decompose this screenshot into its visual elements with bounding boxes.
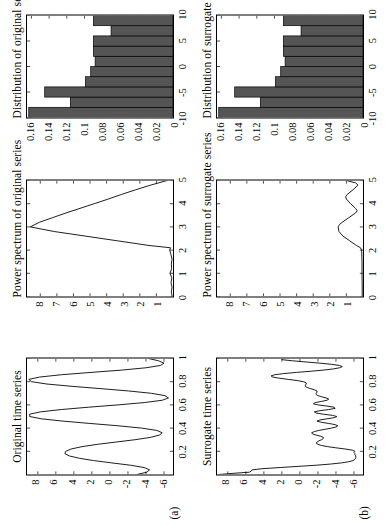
ytick: 0.12	[251, 122, 262, 140]
ytick: -6	[158, 479, 169, 488]
plot-original-time-series	[26, 357, 174, 475]
xtick: 5	[367, 37, 378, 42]
ytick: 2	[274, 479, 285, 484]
original-power-spectrum-svg	[27, 180, 173, 296]
ytick: 0.1	[79, 122, 90, 135]
ytick: 2	[84, 479, 95, 484]
ytick: 0.08	[287, 122, 298, 140]
xtick: -5	[177, 88, 188, 97]
ytick: 4	[256, 479, 267, 484]
ytick: 4	[66, 479, 77, 484]
xtick: 0.4	[177, 421, 188, 434]
plot-surrogate-time-series	[216, 357, 364, 475]
xtick: 0	[177, 294, 188, 299]
panel-title-original-distribution: Distribution of original series	[11, 14, 23, 118]
xtick: 2	[177, 247, 188, 252]
xtick: 5	[177, 37, 188, 42]
ytick: 1	[152, 301, 163, 306]
surrogate-power-spectrum-svg	[217, 180, 363, 296]
plot-surrogate-distribution	[216, 14, 364, 118]
ytick: -6	[348, 479, 359, 488]
ytick: 5	[84, 301, 95, 306]
surrogate-time-series-svg	[217, 358, 363, 474]
xtick: 0.6	[177, 398, 188, 411]
panel-surrogate-distribution: Distribution of surrogate series 0.16 0.…	[216, 14, 364, 118]
ytick: 7	[51, 301, 62, 306]
panel-title-surrogate-distribution: Distribution of surrogate series	[201, 14, 213, 118]
ytick: 0.14	[233, 122, 244, 140]
panel-title-surrogate-time-series: Surrogate time series	[201, 357, 213, 475]
panel-original-distribution: Distribution of original series 0.16 0.1…	[26, 14, 174, 118]
xtick: 0	[367, 63, 378, 68]
ytick: 6	[238, 479, 249, 484]
xtick: 0	[177, 63, 188, 68]
xtick: -5	[367, 88, 378, 97]
plot-surrogate-power-spectrum	[216, 179, 364, 297]
ytick: 7	[241, 301, 252, 306]
ytick: -2	[311, 479, 322, 488]
panel-title-original-power-spectrum: Power spectrum of original series	[11, 179, 23, 297]
xtick: 5	[177, 176, 188, 181]
surrogate-distribution-svg	[217, 15, 363, 117]
xtick: 0.8	[367, 374, 378, 387]
panel-title-original-time-series: Original time series	[11, 357, 23, 475]
ytick: 0.14	[43, 122, 54, 140]
ytick: 0.04	[323, 122, 334, 140]
panel-title-surrogate-power-spectrum: Power spectrum of surrogate series	[201, 179, 213, 297]
xtick: 3	[367, 224, 378, 229]
xtick: 10	[177, 9, 188, 20]
ytick: 6	[258, 301, 269, 306]
xtick: 3	[177, 224, 188, 229]
ytick: 6	[68, 301, 79, 306]
xtick: 10	[367, 9, 378, 20]
ytick: 0.08	[97, 122, 108, 140]
xtick: 4	[367, 200, 378, 205]
ytick: 0.02	[151, 122, 162, 140]
xtick: 5	[367, 176, 378, 181]
xtick: 0.2	[367, 445, 378, 458]
ytick: 0.1	[269, 122, 280, 135]
plot-original-distribution	[26, 14, 174, 118]
xtick: 1	[367, 271, 378, 276]
xtick: 0	[367, 294, 378, 299]
xtick: -10	[367, 111, 378, 125]
ytick: 0.06	[115, 122, 126, 140]
panel-surrogate-time-series: Surrogate time series 8 6 4 2 0 -2 -4 -6…	[216, 357, 364, 475]
panel-surrogate-power-spectrum: Power spectrum of surrogate series 8 7 6…	[216, 179, 364, 297]
ytick: -4	[329, 479, 340, 488]
original-distribution-svg	[27, 15, 173, 117]
ytick: 0.12	[61, 122, 72, 140]
ytick: 0.02	[341, 122, 352, 140]
xtick: 0.8	[177, 374, 188, 387]
xtick: -10	[177, 111, 188, 125]
ytick: 3	[308, 301, 319, 306]
ytick: 8	[224, 301, 235, 306]
ytick: 0.16	[215, 122, 226, 140]
ytick: 4	[101, 301, 112, 306]
xtick: 1	[177, 354, 188, 359]
plot-original-power-spectrum	[26, 179, 174, 297]
xtick: 0.2	[177, 445, 188, 458]
row-label-a: (a)	[168, 506, 180, 519]
figure-rotator: (a) Original time series 8 6 4 2 0 -2 -4…	[0, 0, 390, 525]
ytick: 4	[291, 301, 302, 306]
ytick: 8	[30, 479, 41, 484]
ytick: 0.06	[305, 122, 316, 140]
xtick: 2	[367, 247, 378, 252]
ytick: 8	[220, 479, 231, 484]
original-time-series-svg	[27, 358, 173, 474]
panel-original-power-spectrum: Power spectrum of original series 8 7 6 …	[26, 179, 174, 297]
ytick: 0.16	[25, 122, 36, 140]
xtick: 4	[177, 200, 188, 205]
ytick: 3	[118, 301, 129, 306]
xtick: 0.6	[367, 398, 378, 411]
ytick: 6	[48, 479, 59, 484]
ytick: 1	[342, 301, 353, 306]
ytick: 0	[103, 479, 114, 484]
ytick: 2	[325, 301, 336, 306]
ytick: 2	[135, 301, 146, 306]
ytick: 0.04	[133, 122, 144, 140]
ytick: -2	[121, 479, 132, 488]
ytick: 5	[274, 301, 285, 306]
ytick: 8	[34, 301, 45, 306]
